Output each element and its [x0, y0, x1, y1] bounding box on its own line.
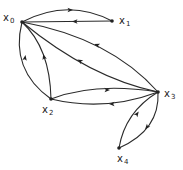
node-label-x1: x1 — [119, 15, 130, 28]
edge-x1-to-x0 — [22, 21, 112, 22]
edge-x3-to-x0 — [22, 22, 158, 92]
node-x1 — [110, 19, 114, 23]
node-label-x3: x3 — [164, 88, 175, 101]
edge-x2-to-x0 — [19, 22, 51, 99]
arrowhead-icon — [22, 55, 27, 61]
node-label-x0: x0 — [3, 12, 14, 25]
edge-x3-to-x4 — [119, 92, 158, 148]
node-x2 — [49, 97, 53, 101]
edge-x3-to-x0 — [22, 22, 158, 92]
arrowhead-icon — [41, 54, 47, 60]
node-x4 — [117, 146, 121, 150]
node-x3 — [156, 90, 160, 94]
graph-canvas: x0x1x2x3x4 — [0, 0, 183, 170]
edge-x0-to-x1 — [22, 10, 112, 22]
node-label-x4: x4 — [117, 153, 129, 166]
arrowhead-icon — [109, 102, 115, 106]
node-x0 — [20, 20, 24, 24]
node-label-x2: x2 — [42, 104, 53, 117]
directed-graph-diagram: x0x1x2x3x4 — [0, 0, 183, 170]
